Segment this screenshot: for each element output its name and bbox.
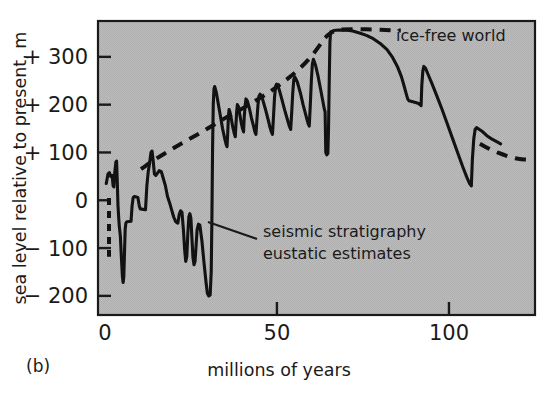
sea-level-chart: − 200− 1000+ 100+ 200+ 300 050100 ice-fr… [0, 0, 553, 395]
annotation-seismic-line1: seismic stratigraphy [263, 222, 426, 241]
y-tick-label-200: + 200 [24, 93, 88, 117]
x-axis-tick-labels: 050100 [98, 321, 469, 345]
figure-panel-b: − 200− 1000+ 100+ 200+ 300 050100 ice-fr… [0, 0, 553, 395]
y-tick-label-100: + 100 [24, 141, 88, 165]
x-tick-label-100: 100 [429, 321, 469, 345]
x-tick-label-0: 0 [98, 321, 111, 345]
y-tick-label--200: − 200 [24, 284, 88, 308]
annotation-seismic-line2: eustatic estimates [263, 244, 411, 263]
x-axis-title: millions of years [207, 360, 351, 380]
annotation-ice-free-world: ice-free world [396, 26, 506, 45]
y-tick-label--100: − 100 [24, 237, 88, 261]
y-axis-tick-labels: − 200− 1000+ 100+ 200+ 300 [24, 45, 88, 308]
y-tick-label-300: + 300 [24, 45, 88, 69]
y-axis-title: sea level relative to present, m [10, 32, 30, 305]
panel-label: (b) [26, 356, 50, 376]
y-tick-label-0: 0 [75, 189, 88, 213]
x-tick-label-50: 50 [264, 321, 291, 345]
